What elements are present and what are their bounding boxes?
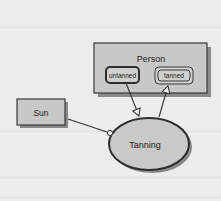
tanning-process[interactable]: Tanning	[109, 118, 192, 173]
sun-label: Sun	[33, 108, 48, 118]
state-untanned[interactable]: untanned	[106, 67, 139, 83]
state-tanned-label: tanned	[164, 72, 184, 79]
person-label: Person	[137, 54, 166, 64]
sun-object[interactable]: Sun	[17, 99, 68, 128]
opm-diagram: Person untanned tanned Sun Tanning	[0, 0, 221, 201]
state-tanned[interactable]: tanned	[155, 67, 193, 84]
instrument-link-sun-to-tanning[interactable]	[68, 119, 107, 132]
tanning-label: Tanning	[129, 140, 161, 150]
instrument-circle-icon	[107, 130, 112, 135]
state-untanned-label: untanned	[109, 72, 136, 79]
